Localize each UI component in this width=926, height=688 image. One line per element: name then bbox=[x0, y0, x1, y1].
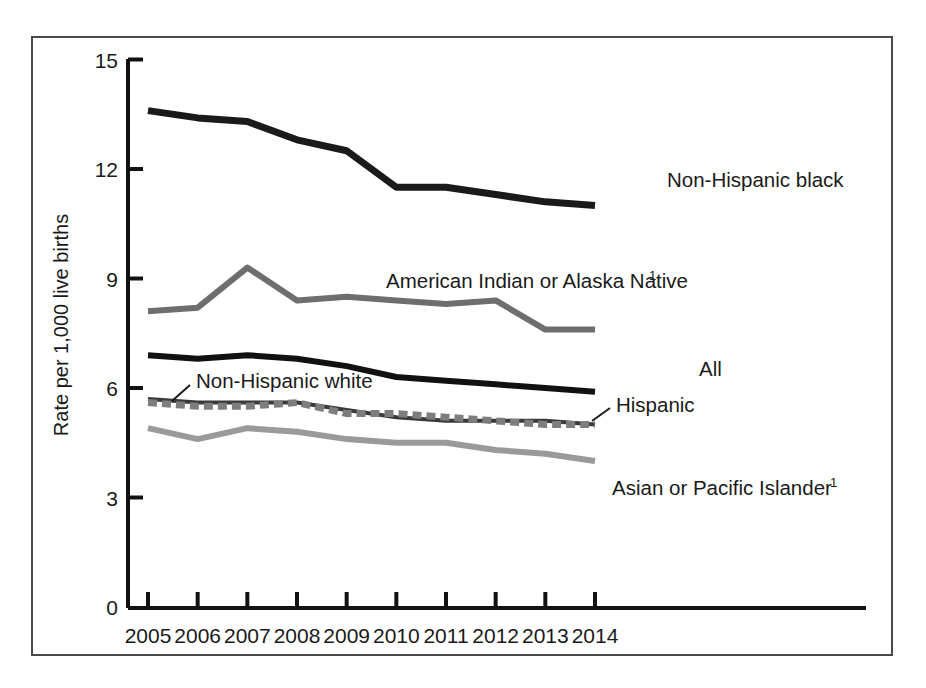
x-tick-label: 2009 bbox=[323, 624, 370, 647]
x-tick-label: 2011 bbox=[423, 624, 468, 647]
y-axis-title: Rate per 1,000 live births bbox=[50, 214, 72, 436]
y-tick-label: 15 bbox=[95, 49, 118, 72]
y-tick-label: 12 bbox=[95, 158, 118, 181]
x-tick-label: 2007 bbox=[224, 624, 271, 647]
leader-line-hispanic bbox=[592, 408, 610, 421]
leader-line-non-hispanic-white bbox=[172, 385, 190, 401]
label-non-hispanic-black: Non-Hispanic black bbox=[667, 168, 844, 191]
x-tick-label: 2006 bbox=[174, 624, 221, 647]
x-tick-label: 2005 bbox=[125, 624, 172, 647]
label-non-hispanic-white: Non-Hispanic white bbox=[196, 369, 373, 392]
y-axis-ticks: 03691215 bbox=[95, 49, 143, 620]
label-hispanic-group: Hispanic bbox=[592, 393, 695, 421]
series-line-hispanic bbox=[148, 403, 595, 425]
y-tick-label: 3 bbox=[106, 487, 118, 510]
label-asian-pacific: Asian or Pacific Islander bbox=[612, 476, 832, 499]
label-asian-pacific-group: Asian or Pacific Islander 1 bbox=[612, 475, 837, 499]
x-axis-ticks: 2005200620072008200920102011201220132014 bbox=[125, 592, 619, 647]
label-all: All bbox=[699, 357, 722, 380]
y-tick-label: 0 bbox=[106, 596, 118, 619]
x-tick-label: 2013 bbox=[522, 624, 569, 647]
x-tick-label: 2008 bbox=[274, 624, 321, 647]
label-american-indian-group: American Indian or Alaska Native 1 bbox=[386, 268, 688, 292]
x-tick-label: 2010 bbox=[373, 624, 420, 647]
line-chart: Rate per 1,000 live births 03691215 2005… bbox=[0, 0, 926, 688]
label-asian-pacific-superscript: 1 bbox=[830, 475, 837, 490]
label-american-indian: American Indian or Alaska Native bbox=[386, 269, 688, 292]
series-line-non-hispanic-black bbox=[148, 111, 595, 206]
y-tick-label: 6 bbox=[106, 377, 118, 400]
y-axis-title-text: Rate per 1,000 live births bbox=[50, 214, 72, 436]
figure-root: Rate per 1,000 live births 03691215 2005… bbox=[0, 0, 926, 688]
y-tick-label: 9 bbox=[106, 268, 118, 291]
label-hispanic: Hispanic bbox=[616, 393, 695, 416]
x-tick-label: 2012 bbox=[472, 624, 519, 647]
label-non-hispanic-white-group: Non-Hispanic white bbox=[172, 369, 373, 401]
series-line-asian-or-pacific-islander bbox=[148, 428, 595, 461]
label-american-indian-superscript: 1 bbox=[649, 268, 656, 283]
axes bbox=[128, 59, 866, 608]
x-tick-label: 2014 bbox=[572, 624, 619, 647]
